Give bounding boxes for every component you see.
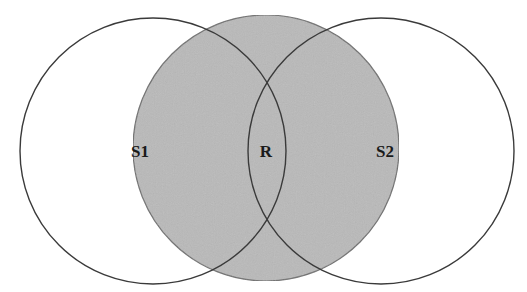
label-s1: S1 [131, 142, 149, 161]
label-r: R [260, 142, 273, 161]
label-s2: S2 [376, 142, 394, 161]
venn-diagram-svg: S1 R S2 [0, 0, 527, 292]
venn-diagram: S1 R S2 [0, 0, 527, 292]
